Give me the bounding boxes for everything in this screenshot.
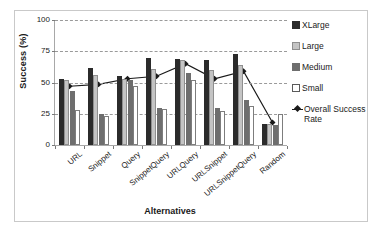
bar-small-random: [278, 114, 283, 145]
x-axis-tick-labels: URLSnippetQuerySnippetQueryURLQueryURLSn…: [54, 148, 286, 206]
bar-large-urlquery: [180, 60, 185, 145]
bar-group: [84, 20, 113, 145]
legend-swatch-small-icon: [292, 84, 300, 92]
bar-large-random: [267, 124, 272, 145]
bar-group: [229, 20, 258, 145]
bar-small-snippetquery: [162, 109, 167, 145]
bar-xlarge-random: [262, 124, 267, 145]
legend-item-overall-success-rate[interactable]: Overall Success Rate: [292, 104, 380, 124]
legend-swatch-line-icon: [292, 105, 303, 113]
bar-xlarge-urlsnippet: [204, 60, 209, 145]
bar-group: [55, 20, 84, 145]
bar-medium-random: [273, 125, 278, 145]
bar-medium-snippet: [99, 114, 104, 145]
bar-group: [171, 20, 200, 145]
legend-label: Medium: [302, 62, 332, 72]
bar-small-query: [133, 86, 138, 145]
legend-swatch-large-icon: [292, 42, 300, 50]
bar-small-urlquery: [191, 80, 196, 145]
chart-legend: XLargeLargeMediumSmallOverall Success Ra…: [292, 20, 380, 135]
legend-label: XLarge: [302, 20, 329, 30]
bar-xlarge-snippetquery: [146, 58, 151, 146]
bar-small-snippet: [104, 116, 109, 145]
bar-large-snippetquery: [151, 69, 156, 145]
bar-large-urlsnippetquery: [238, 65, 243, 145]
legend-swatch-medium-icon: [292, 63, 300, 71]
legend-item-xlarge[interactable]: XLarge: [292, 20, 380, 30]
legend-item-small[interactable]: Small: [292, 83, 380, 93]
x-tick-mark: [287, 146, 288, 149]
bar-xlarge-urlquery: [175, 59, 180, 145]
bar-medium-urlsnippet: [215, 108, 220, 146]
legend-label: Small: [302, 83, 323, 93]
y-tick-label: 0: [26, 141, 50, 149]
bar-xlarge-snippet: [88, 68, 93, 146]
bar-large-snippet: [93, 75, 98, 145]
bar-medium-url: [70, 91, 75, 145]
legend-item-medium[interactable]: Medium: [292, 62, 380, 72]
x-axis-title: Alternatives: [54, 206, 286, 216]
bar-xlarge-url: [59, 79, 64, 145]
bar-medium-urlquery: [186, 73, 191, 146]
bar-small-url: [75, 110, 80, 145]
y-tick-label: 75: [26, 47, 50, 55]
legend-label: Large: [302, 41, 324, 51]
bar-medium-urlsnippetquery: [244, 100, 249, 145]
y-axis-tick-labels: 0255075100: [24, 20, 50, 145]
x-tick-label-snippet: Snippet: [85, 148, 112, 172]
x-tick-label-url: URL: [64, 148, 82, 165]
bar-group: [113, 20, 142, 145]
legend-item-large[interactable]: Large: [292, 41, 380, 51]
bar-group: [258, 20, 287, 145]
x-tick-label-random: Random: [256, 148, 285, 174]
x-tick-label-query: Query: [118, 148, 140, 169]
bar-medium-query: [128, 80, 133, 145]
legend-swatch-xlarge-icon: [292, 21, 300, 29]
legend-label: Overall Success Rate: [304, 104, 380, 124]
y-tick-label: 25: [26, 110, 50, 118]
bar-group: [142, 20, 171, 145]
bar-medium-snippetquery: [157, 108, 162, 146]
bar-xlarge-urlsnippetquery: [233, 54, 238, 145]
bar-large-url: [64, 80, 69, 145]
bar-group: [200, 20, 229, 145]
y-tick-label: 100: [26, 16, 50, 24]
bar-small-urlsnippet: [220, 111, 225, 145]
bar-large-urlsnippet: [209, 70, 214, 145]
bar-xlarge-query: [117, 76, 122, 145]
plot-area: [54, 20, 287, 146]
bar-large-query: [122, 79, 127, 145]
chart-figure: Success (%) 0255075100 URLSnippetQuerySn…: [0, 0, 383, 238]
y-tick-label: 50: [26, 79, 50, 87]
bar-small-urlsnippetquery: [249, 106, 254, 145]
